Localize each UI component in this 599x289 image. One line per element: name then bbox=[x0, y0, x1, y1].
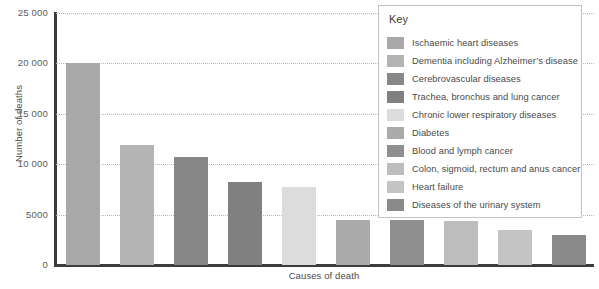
legend-label: Chronic lower respiratory diseases bbox=[412, 110, 556, 120]
y-axis-tick-label: 15 000 bbox=[0, 108, 48, 119]
legend-label: Trachea, bronchus and lung cancer bbox=[412, 92, 560, 102]
legend-title: Key bbox=[389, 13, 408, 25]
bar bbox=[282, 187, 315, 265]
legend-row: Blood and lymph cancer bbox=[387, 142, 577, 160]
legend-label: Dementia including Alzheimer’s disease bbox=[412, 56, 578, 66]
legend-row: Colon, sigmoid, rectum and anus cancer bbox=[387, 160, 577, 178]
legend-row: Diabetes bbox=[387, 124, 577, 142]
legend-label: Diseases of the urinary system bbox=[412, 200, 541, 210]
legend-row: Cerebrovascular diseases bbox=[387, 70, 577, 88]
y-axis-tick-label: 25 000 bbox=[0, 7, 48, 18]
y-axis-tick-label: 5000 bbox=[0, 209, 48, 220]
legend-swatch bbox=[387, 109, 404, 121]
legend-swatch bbox=[387, 199, 404, 211]
legend-swatch bbox=[387, 145, 404, 157]
bar bbox=[174, 157, 207, 265]
bar bbox=[66, 63, 99, 265]
legend-swatch bbox=[387, 163, 404, 175]
bar-chart: 0500010 00015 00020 00025 000 Number of … bbox=[0, 0, 599, 289]
legend-label: Blood and lymph cancer bbox=[412, 146, 513, 156]
legend-box: Key Ischaemic heart diseasesDementia inc… bbox=[378, 5, 582, 218]
legend-items: Ischaemic heart diseasesDementia includi… bbox=[387, 34, 577, 214]
legend-swatch bbox=[387, 55, 404, 67]
legend-swatch bbox=[387, 181, 404, 193]
legend-row: Heart failure bbox=[387, 178, 577, 196]
bar bbox=[552, 235, 585, 265]
legend-swatch bbox=[387, 91, 404, 103]
legend-row: Dementia including Alzheimer’s disease bbox=[387, 52, 577, 70]
bar bbox=[120, 145, 153, 265]
y-axis-tick-label: 0 bbox=[0, 259, 48, 270]
bar bbox=[336, 220, 369, 265]
legend-swatch bbox=[387, 127, 404, 139]
legend-row: Chronic lower respiratory diseases bbox=[387, 106, 577, 124]
legend-label: Ischaemic heart diseases bbox=[412, 38, 518, 48]
bar bbox=[498, 230, 531, 265]
x-axis-title: Causes of death bbox=[54, 270, 594, 281]
legend-label: Colon, sigmoid, rectum and anus cancer bbox=[412, 164, 580, 174]
legend-label: Heart failure bbox=[412, 182, 463, 192]
legend-row: Trachea, bronchus and lung cancer bbox=[387, 88, 577, 106]
legend-swatch bbox=[387, 73, 404, 85]
y-axis-tick-label: 10 000 bbox=[0, 158, 48, 169]
y-axis-title: Number of deaths bbox=[13, 54, 24, 194]
legend-row: Ischaemic heart diseases bbox=[387, 34, 577, 52]
legend-label: Diabetes bbox=[412, 128, 449, 138]
bar bbox=[390, 220, 423, 265]
y-axis-tick-label: 20 000 bbox=[0, 57, 48, 68]
legend-swatch bbox=[387, 37, 404, 49]
legend-row: Diseases of the urinary system bbox=[387, 196, 577, 214]
bar bbox=[228, 182, 261, 265]
bar bbox=[444, 221, 477, 265]
legend-label: Cerebrovascular diseases bbox=[412, 74, 521, 84]
